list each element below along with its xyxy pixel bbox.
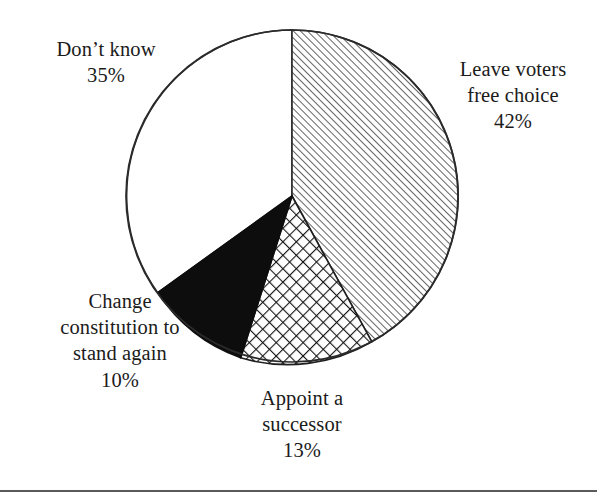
pie-label-change-constitution-line1: Change (20, 288, 220, 314)
pie-label-leave-voters-line1: Leave voters (430, 56, 596, 82)
pie-label-appoint-successor-line2: successor (204, 411, 400, 437)
pie-label-dont-know-text: Don’t know (6, 36, 206, 62)
pie-label-change-constitution-line2: constitution to (20, 314, 220, 340)
pie-label-change-constitution-value: 10% (20, 367, 220, 393)
pie-label-change-constitution-line3: stand again (20, 340, 220, 366)
pie-label-change-constitution: Change constitution to stand again 10% (20, 288, 220, 393)
chart-plot-area: Don’t know 35% Leave voters free choice … (0, 0, 597, 492)
pie-label-leave-voters: Leave voters free choice 42% (430, 56, 596, 135)
bottom-horizontal-rule (0, 490, 597, 492)
pie-label-dont-know-value: 35% (6, 62, 206, 88)
pie-label-appoint-successor-value: 13% (204, 437, 400, 463)
pie-label-appoint-successor-line1: Appoint a (204, 385, 400, 411)
pie-label-leave-voters-value: 42% (430, 108, 596, 134)
pie-chart-figure: Don’t know 35% Leave voters free choice … (0, 0, 597, 502)
pie-label-leave-voters-line2: free choice (430, 82, 596, 108)
pie-label-dont-know: Don’t know 35% (6, 36, 206, 88)
pie-label-appoint-successor: Appoint a successor 13% (204, 385, 400, 464)
